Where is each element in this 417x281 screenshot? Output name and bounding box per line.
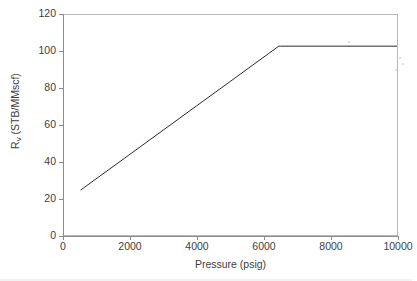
y-tick-mark	[59, 14, 63, 15]
x-tick-label: 10000	[374, 240, 417, 252]
y-tick-label-wrap: 20	[8, 193, 56, 204]
x-axis-title: Pressure (psig)	[63, 258, 398, 270]
y-tick-label: 120	[12, 8, 56, 19]
x-tick-label: 2000	[106, 240, 154, 252]
y-tick-mark	[59, 199, 63, 200]
plot-inner-region	[64, 15, 397, 235]
plot-area-frame	[63, 14, 398, 236]
y-tick-mark	[59, 88, 63, 89]
y-tick-label: 20	[12, 193, 56, 204]
series-line-rv	[81, 46, 397, 190]
y-tick-mark	[59, 162, 63, 163]
y-tick-mark	[59, 125, 63, 126]
y-axis-title-units: (STB/MMscf)	[9, 73, 21, 137]
y-tick-label-wrap: 120	[8, 8, 56, 19]
scan-speck	[402, 63, 404, 65]
y-axis-title: Rv (STB/MMscf)	[9, 51, 23, 171]
series-layer	[64, 15, 397, 235]
scan-speck	[399, 57, 401, 59]
y-axis-title-subscript: v	[14, 137, 23, 141]
x-tick-label: 4000	[173, 240, 221, 252]
x-tick-label: 8000	[307, 240, 355, 252]
y-tick-mark	[59, 51, 63, 52]
scan-speck	[348, 41, 350, 43]
x-axis-line	[63, 236, 398, 237]
scan-speck	[395, 69, 397, 71]
x-tick-label: 6000	[240, 240, 288, 252]
x-tick-label: 0	[39, 240, 87, 252]
y-axis-line	[63, 14, 64, 236]
y-axis-title-main: R	[9, 141, 21, 149]
